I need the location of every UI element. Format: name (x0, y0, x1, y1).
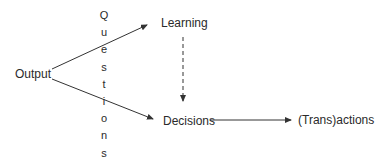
questions-letter: Q (100, 8, 109, 25)
questions-letter: u (101, 25, 107, 42)
questions-letter: t (102, 77, 105, 94)
questions-letter: o (101, 111, 107, 128)
node-decisions: Decisions (163, 114, 215, 128)
node-learning: Learning (161, 16, 208, 30)
diagram-canvas: Output Q u e s t i o n s Learning Decisi… (0, 0, 377, 165)
questions-letter: i (103, 94, 105, 111)
questions-letter: s (101, 146, 107, 163)
questions-vertical-label: Q u e s t i o n s (98, 8, 110, 163)
node-output: Output (15, 67, 51, 81)
questions-letter: s (101, 60, 107, 77)
questions-letter: n (101, 128, 107, 145)
node-transactions: (Trans)actions (298, 113, 374, 127)
questions-letter: e (101, 42, 107, 59)
